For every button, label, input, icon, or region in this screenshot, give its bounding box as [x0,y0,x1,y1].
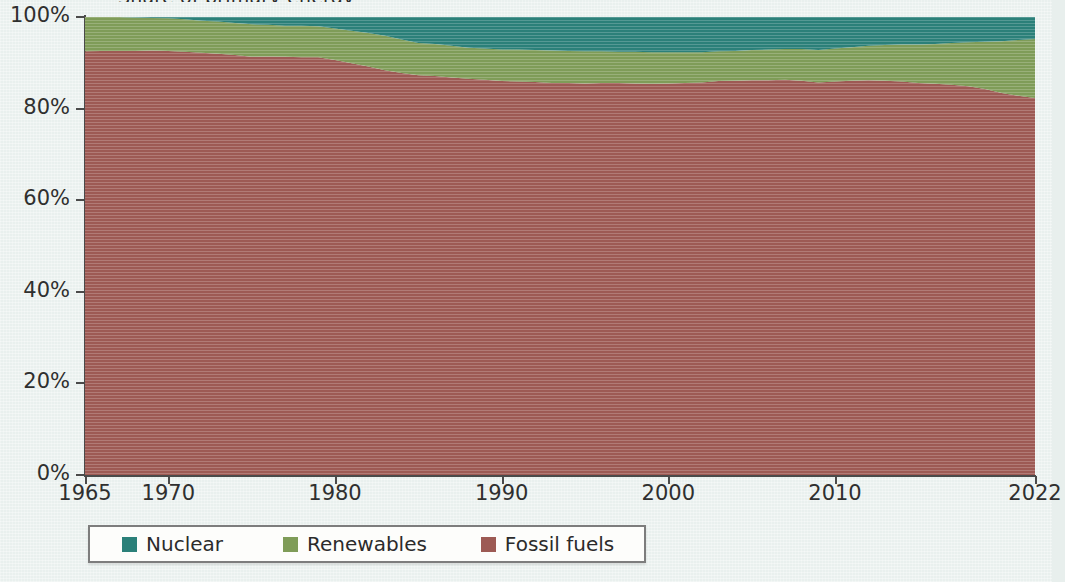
x-axis-label: 2000 [628,481,708,505]
x-axis-label: 2010 [795,481,875,505]
y-axis-label: 40% [0,278,70,302]
legend-swatch-fossil-fuels [481,537,496,552]
x-axis-label: 1970 [128,481,208,505]
y-axis-label: 100% [0,3,70,27]
legend-item-fossil-fuels[interactable]: Fossil fuels [481,527,614,561]
legend-swatch-nuclear [122,537,137,552]
legend-label-fossil-fuels: Fossil fuels [505,532,614,556]
x-axis-label: 1980 [295,481,375,505]
stacked-area-series [85,17,1035,475]
legend-item-nuclear[interactable]: Nuclear [122,527,223,561]
x-axis-label: 1965 [45,481,125,505]
chart-legend[interactable]: Nuclear Renewables Fossil fuels [88,525,646,563]
y-axis-label: 80% [0,95,70,119]
x-axis-label: 1990 [462,481,542,505]
x-axis-label: 2022 [995,481,1065,505]
legend-swatch-renewables [283,537,298,552]
paper-texture-overlay [85,17,1035,475]
y-axis-label: 20% [0,369,70,393]
plot-area [85,17,1035,475]
legend-label-renewables: Renewables [307,532,427,556]
x-axis-line [84,475,1036,477]
legend-label-nuclear: Nuclear [146,532,223,556]
plot-surface [85,17,1035,475]
chart-title-cropped: Share of primary energy [118,0,354,2]
y-axis-label: 60% [0,186,70,210]
legend-item-renewables[interactable]: Renewables [283,527,427,561]
